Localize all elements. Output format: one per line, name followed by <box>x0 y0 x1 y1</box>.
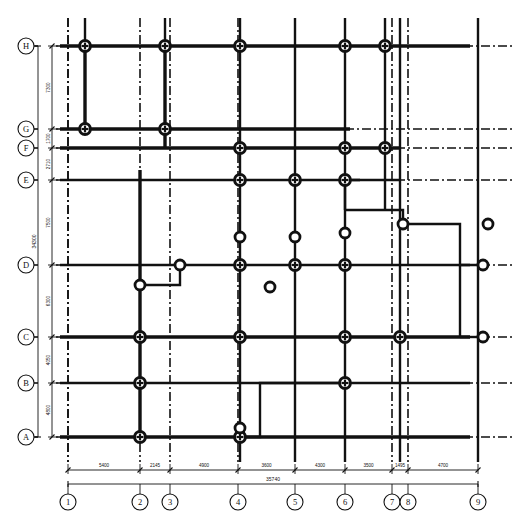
axis-bubble-label-A: A <box>23 432 30 442</box>
axis-bubble-label-2: 2 <box>138 497 142 507</box>
dimension-label-left-1: 1700 <box>46 133 51 144</box>
dimension-label-left-6: 4800 <box>46 404 51 415</box>
dimension-label-left-total: 34300 <box>31 234 37 248</box>
dimension-label-bottom-1: 2145 <box>150 463 161 468</box>
dimension-label-bottom-6: 1495 <box>395 463 406 468</box>
dimension-label-bottom-7: 4700 <box>438 463 449 468</box>
column-marker-offgrid-2 <box>340 228 350 238</box>
axis-bubble-label-F: F <box>24 143 29 153</box>
axis-bubble-label-9: 9 <box>476 497 480 507</box>
drawing-canvas: 5400214549003600430035001495470035740730… <box>0 0 525 522</box>
dimension-label-left-3: 7500 <box>46 217 51 228</box>
dimension-label-left-2: 2710 <box>46 158 51 169</box>
column-marker-offgrid-4 <box>478 260 488 270</box>
dimension-label-left-4: 6300 <box>46 295 51 306</box>
axis-bubble-label-B: B <box>23 378 29 388</box>
axis-bubble-label-5: 5 <box>293 497 297 507</box>
axis-bubble-label-D: D <box>23 260 29 270</box>
axis-bubble-label-C: C <box>23 332 29 342</box>
column-marker-offgrid-3 <box>175 260 185 270</box>
axis-bubble-label-3: 3 <box>168 497 172 507</box>
floor-plan-svg: 5400214549003600430035001495470035740730… <box>0 0 525 522</box>
dimension-label-bottom-5: 3500 <box>363 463 374 468</box>
column-marker-offgrid-5 <box>135 280 145 290</box>
axis-bubble-label-6: 6 <box>343 497 347 507</box>
column-marker-offgrid-7 <box>398 219 408 229</box>
column-marker-offgrid-10 <box>235 423 245 433</box>
dimension-label-left-0: 7300 <box>46 82 51 93</box>
dimension-label-bottom-3: 3600 <box>261 463 272 468</box>
dimension-label-bottom-2: 4900 <box>199 463 210 468</box>
axis-bubble-label-H: H <box>23 41 29 51</box>
dimension-label-bottom-0: 5400 <box>99 463 110 468</box>
axis-bubble-label-G: G <box>23 124 29 134</box>
column-marker-offgrid-0 <box>235 232 245 242</box>
column-marker-offgrid-6 <box>265 282 275 292</box>
axis-bubble-label-1: 1 <box>66 497 70 507</box>
column-marker-offgrid-1 <box>290 232 300 242</box>
sheet-background <box>0 0 525 522</box>
column-marker-offgrid-8 <box>483 219 493 229</box>
axis-bubble-label-7: 7 <box>390 497 394 507</box>
dimension-label-left-5: 4050 <box>46 354 51 365</box>
axis-bubble-label-E: E <box>23 175 28 185</box>
dimension-label-bottom-4: 4300 <box>315 463 326 468</box>
dimension-label-bottom-total: 35740 <box>266 476 280 482</box>
column-marker-offgrid-9 <box>478 332 488 342</box>
axis-bubble-label-8: 8 <box>406 497 410 507</box>
